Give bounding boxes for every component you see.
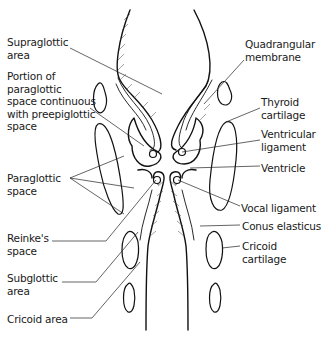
label-subglottic-area: Subglottic area <box>7 272 58 297</box>
right-cartilages <box>206 81 237 312</box>
right-cricoid-cartilage <box>206 231 223 268</box>
label-ventricular-ligament: Ventricular ligament <box>261 128 316 153</box>
label-thyroid-cartilage: Thyroid cartilage <box>261 96 305 121</box>
label-reinkes-space: Reinke's space <box>7 232 49 257</box>
right-wall <box>170 10 212 330</box>
label-vocal-ligament: Vocal ligament <box>241 202 316 215</box>
label-quadrangular-membrane: Quadrangular membrane <box>245 38 315 63</box>
label-paraglottic-space: Paraglottic space <box>7 172 61 197</box>
right-lower-cricoid <box>210 283 221 312</box>
label-conus-elasticus: Conus elasticus <box>242 220 321 233</box>
left-hatching <box>118 14 164 236</box>
label-cricoid-cartilage: Cricoid cartilage <box>242 240 286 265</box>
label-ventricle: Ventricle <box>261 162 305 175</box>
left-lower-cricoid <box>124 283 135 312</box>
label-paraglottic-preepiglottic: Portion of paraglottic space continuous … <box>7 70 96 133</box>
label-cricoid-area: Cricoid area <box>7 313 68 326</box>
right-preepiglottic-shape <box>218 81 232 104</box>
right-thyroid-cartilage <box>210 122 237 211</box>
larynx-diagram: Supraglottic area Portion of paraglottic… <box>0 0 324 344</box>
left-thyroid-cartilage <box>95 124 123 215</box>
left-cartilages <box>94 83 139 312</box>
label-supraglottic-area: Supraglottic area <box>7 36 68 61</box>
left-cricoid-cartilage <box>122 231 139 268</box>
